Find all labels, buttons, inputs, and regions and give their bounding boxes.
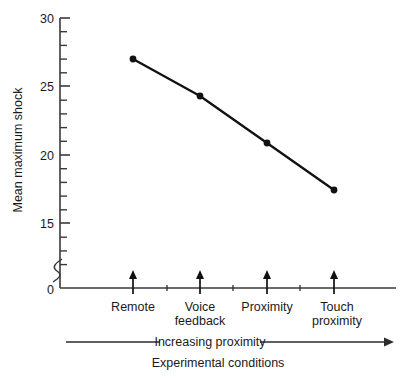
data-point-voice-feedback — [197, 93, 204, 100]
y-tick-label-0: 0 — [47, 283, 54, 297]
increasing-proximity-label: Increasing proximity — [154, 335, 266, 349]
data-point-remote — [130, 56, 137, 63]
condition-label-remote: Remote — [111, 300, 155, 314]
data-point-proximity — [264, 140, 271, 147]
condition-label-proximity: Proximity — [241, 300, 293, 314]
y-tick-label-15: 15 — [40, 217, 54, 231]
y-tick-label-30: 30 — [40, 12, 54, 26]
y-tick-label-20: 20 — [40, 149, 54, 163]
y-tick-label-25: 25 — [40, 80, 54, 94]
y-axis-title: Mean maximum shock — [11, 87, 25, 213]
condition-label-touch-proximity: proximity — [312, 314, 363, 328]
condition-label-touch: Touch — [320, 300, 353, 314]
x-axis-caption: Experimental conditions — [152, 356, 285, 370]
condition-label-voice: Voice — [185, 300, 216, 314]
chart-figure: 30 25 20 15 0 Mean maximum shock — [0, 0, 412, 380]
data-point-touch-proximity — [331, 187, 338, 194]
condition-label-feedback: feedback — [175, 314, 226, 328]
